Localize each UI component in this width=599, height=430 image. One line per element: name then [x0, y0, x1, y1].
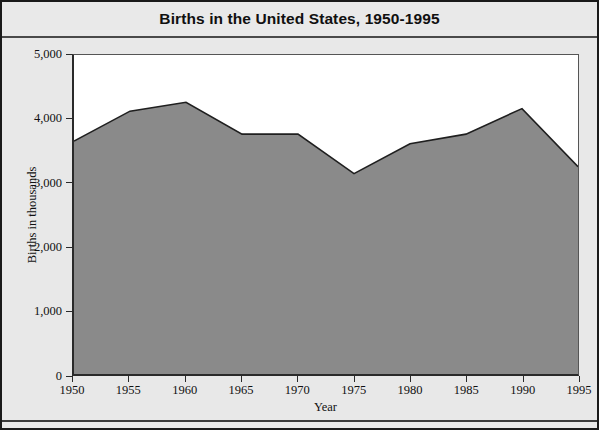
x-axis-tick-label: 1990 [510, 383, 535, 398]
x-axis-tick-label: 1955 [116, 383, 141, 398]
x-axis-tick-mark [128, 376, 129, 382]
y-axis-title-holder: Births in thousands [16, 54, 30, 376]
x-axis-ticks: 1950195519601965197019751980198519901995 [72, 376, 579, 402]
bottom-rule [2, 420, 597, 422]
x-axis-tick-mark [579, 376, 580, 382]
y-axis-title: Births in thousands [25, 115, 40, 315]
x-axis-tick-mark [410, 376, 411, 382]
plot-area [72, 54, 579, 376]
x-axis-tick-label: 1965 [229, 383, 254, 398]
y-axis-tick-label: 2,000 [34, 241, 66, 254]
x-axis-tick-label: 1970 [285, 383, 310, 398]
y-axis-tick-label: 3,000 [34, 177, 66, 190]
y-axis-tick-label: 0 [56, 370, 66, 383]
y-axis-tick-label: 4,000 [34, 112, 66, 125]
y-axis-tick-label: 1,000 [34, 305, 66, 318]
chart-figure: Births in the United States, 1950-1995 B… [0, 0, 599, 430]
x-axis-tick-label: 1995 [567, 383, 592, 398]
x-axis-tick-label: 1985 [454, 383, 479, 398]
area-polygon [74, 102, 578, 374]
title-band: Births in the United States, 1950-1995 [2, 2, 597, 38]
area-series [74, 55, 578, 374]
x-axis-tick-mark [72, 376, 73, 382]
x-axis-tick-label: 1975 [341, 383, 366, 398]
x-axis-title: Year [72, 400, 579, 415]
x-axis-tick-mark [185, 376, 186, 382]
x-axis-tick-mark [523, 376, 524, 382]
x-axis-tick-mark [466, 376, 467, 382]
x-axis-tick-mark [297, 376, 298, 382]
plot-wrapper: Births in thousands 5,0004,0003,0002,000… [2, 38, 597, 428]
page-title: Births in the United States, 1950-1995 [159, 10, 439, 28]
x-axis-tick-label: 1980 [398, 383, 423, 398]
y-axis-tick-label: 5,000 [34, 48, 66, 61]
x-axis-tick-mark [241, 376, 242, 382]
x-axis-tick-mark [354, 376, 355, 382]
x-axis-tick-label: 1950 [60, 383, 85, 398]
x-axis-tick-label: 1960 [172, 383, 197, 398]
